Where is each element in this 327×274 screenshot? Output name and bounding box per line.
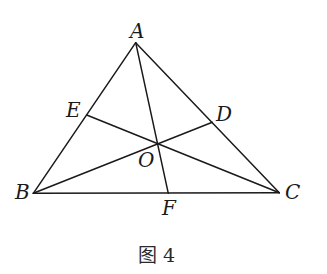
segment-bd: [33, 122, 212, 193]
point-label-a: A: [128, 19, 144, 43]
point-label-e: E: [65, 98, 81, 122]
point-label-d: D: [215, 102, 232, 126]
figure-caption: 图 4: [138, 244, 175, 266]
point-label-f: F: [161, 196, 177, 220]
triangle-diagram: ABCDEFO 图 4: [0, 0, 327, 274]
segment-ce: [87, 115, 280, 193]
point-label-b: B: [14, 180, 30, 204]
segment-bc: [33, 193, 279, 194]
point-label-c: C: [285, 180, 300, 204]
segment-ab: [33, 43, 135, 194]
labels-group: ABCDEFO: [14, 19, 300, 220]
segment-ca: [136, 43, 280, 193]
point-label-o: O: [138, 148, 154, 172]
